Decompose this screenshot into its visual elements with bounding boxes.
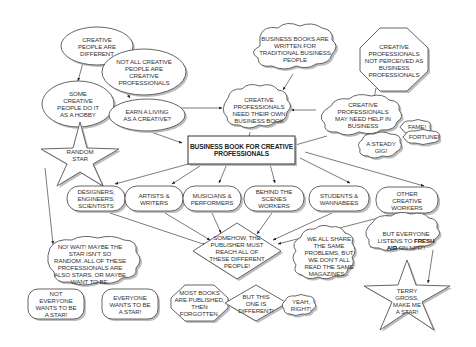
node-no-wait: NO! WAIT! MAYBE THE STAR ISN'T SO RANDOM… <box>40 242 140 286</box>
node-artists[interactable]: ARTISTS & WRITERS <box>125 186 183 211</box>
node-fortune: FORTUNE! <box>402 130 446 142</box>
node-terry-star: TERRY GROSS, MAKE ME A STAR! <box>387 284 427 318</box>
node-designers[interactable]: DESIGNERS; ENGINEERS; SCIENTISTS <box>67 186 125 211</box>
node-random-star: RANDOM STAR <box>60 146 100 164</box>
fresh-air-text-post: ON NPR!! <box>397 244 425 251</box>
node-other-creative[interactable]: OTHER CREATIVE WORKERS <box>376 187 438 213</box>
node-yeah-right: YEAH, RIGHT! <box>284 297 318 313</box>
node-hobby: SOME CREATIVE PEOPLE DO IT AS A HOBBY <box>48 86 108 122</box>
node-publisher: SOMEHOW, THE PUBLISHER MUST REACH ALL OF… <box>203 232 271 270</box>
node-fresh-air: BUT EVERYONE LISTENS TO FRESH AIR ON NPR… <box>368 218 444 248</box>
node-need-own: CREATIVE PROFESSIONALS NEED THEIR OWN BU… <box>224 90 294 130</box>
node-not-perceived: CREATIVE PROFESSIONALS NOT PERCEIVED AS … <box>358 32 430 88</box>
node-not-everyone: NOT EVERYONE WANTS TO BE A STAR! <box>28 289 84 319</box>
node-main-book: BUSINESS BOOK FOR CREATIVE PROFESSIONALS <box>188 136 295 164</box>
node-everyone: EVERYONE WANTS TO BE A STAR! <box>102 289 158 319</box>
node-books-written: BUSINESS BOOKS ARE WRITTEN FOR TRADITION… <box>254 29 336 69</box>
node-musicians[interactable]: MUSICIANS & PERFORMERS <box>183 186 241 211</box>
node-steady-gig: A STEADY GIG! <box>358 136 404 158</box>
node-share-problems: WE ALL SHARE THE SAME PROBLEMS, BUT WE D… <box>298 232 360 280</box>
node-not-all-creative: NOT ALL CREATIVE PEOPLE ARE CREATIVE PRO… <box>104 54 184 90</box>
node-but-this: BUT THIS ONE IS DIFFERENT! <box>232 292 280 314</box>
node-earn-living: EARN A LIVING AS A CREATIVE? <box>112 104 182 126</box>
node-need-help: CREATIVE PROFESSIONALS MAY NEED HELP IN … <box>322 98 404 132</box>
node-behind-scenes[interactable]: BEHIND THE SCENES WORKERS <box>244 186 304 211</box>
node-students[interactable]: STUDENTS & WANNABEES <box>309 186 369 211</box>
node-most-books: MOST BOOKS ARE PUBLISHED, THEN FORGOTTEN… <box>171 285 228 321</box>
